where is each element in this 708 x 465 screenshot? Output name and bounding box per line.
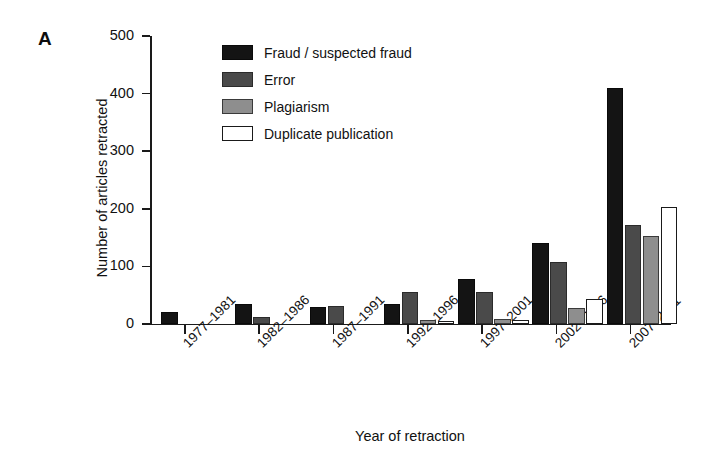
legend-label: Fraud / suspected fraud (264, 45, 412, 61)
y-tick-label: 400 (78, 85, 134, 101)
bar (550, 262, 567, 324)
legend-label: Error (264, 72, 295, 88)
y-tick-label: 300 (78, 142, 134, 158)
bar (161, 312, 178, 324)
bar (661, 207, 678, 324)
legend-label: Plagiarism (264, 99, 329, 115)
bar (402, 292, 419, 324)
bar (458, 279, 475, 324)
legend-swatch (222, 126, 253, 141)
y-tick-label: 0 (78, 315, 134, 331)
legend-swatch (222, 72, 253, 87)
legend-swatch (222, 45, 253, 60)
bar (328, 306, 345, 324)
legend-item: Duplicate publication (222, 121, 482, 146)
x-axis-title: Year of retraction (150, 428, 670, 444)
bar (607, 88, 624, 324)
x-tick-label: 1982–1986 (254, 340, 265, 351)
y-tick-label: 200 (78, 200, 134, 216)
bar (512, 320, 529, 324)
bar (235, 304, 252, 324)
bar (625, 225, 642, 324)
x-tick-mark (630, 325, 632, 334)
bar (568, 308, 585, 324)
bar (438, 321, 455, 324)
panel-label: A (38, 28, 52, 50)
bar (476, 292, 493, 324)
figure-panel-a: A Number of articles retracted Year of r… (0, 0, 708, 465)
bar (384, 304, 401, 324)
legend-item: Plagiarism (222, 94, 482, 119)
y-tick-mark (142, 266, 150, 268)
bar (420, 320, 437, 324)
legend: Fraud / suspected fraudErrorPlagiarismDu… (222, 40, 482, 148)
x-tick-mark (556, 325, 558, 334)
y-tick-mark (142, 35, 150, 37)
legend-item: Error (222, 67, 482, 92)
legend-label: Duplicate publication (264, 126, 393, 142)
bar (643, 236, 660, 324)
y-tick-mark (142, 323, 150, 325)
x-tick-label: 1997–2001 (477, 340, 488, 351)
y-tick-label: 500 (78, 27, 134, 43)
bar (310, 307, 327, 324)
legend-swatch (222, 99, 253, 114)
legend-item: Fraud / suspected fraud (222, 40, 482, 65)
bar (586, 299, 603, 324)
y-tick-mark (142, 150, 150, 152)
x-tick-mark (407, 325, 409, 334)
x-tick-label: 1977–1981 (180, 340, 191, 351)
y-tick-label: 100 (78, 257, 134, 273)
x-tick-label: 2002–2006 (552, 340, 563, 351)
x-tick-label: 2007–2011 (626, 340, 637, 351)
y-tick-mark (142, 208, 150, 210)
bar (532, 243, 549, 324)
x-tick-mark (333, 325, 335, 334)
bar (494, 319, 511, 324)
y-tick-mark (142, 93, 150, 95)
bar (253, 317, 270, 324)
x-tick-label: 1992–1996 (403, 340, 414, 351)
x-tick-label: 1987–1991 (329, 340, 340, 351)
